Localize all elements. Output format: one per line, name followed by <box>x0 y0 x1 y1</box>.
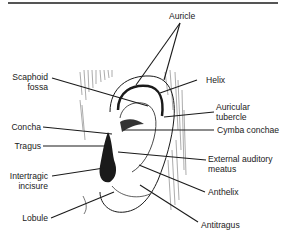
concha-shadow <box>99 132 116 182</box>
label-external-auditory-meatus-line1: External auditory <box>208 154 273 164</box>
label-concha: Concha <box>4 122 41 132</box>
label-cymba-conchae: Cymba conchae <box>217 125 279 135</box>
label-helix: Helix <box>206 75 225 85</box>
helix-fold <box>118 86 162 116</box>
label-auricle: Auricle <box>169 11 195 21</box>
label-intertragic-incisure-line2: incisure <box>0 181 48 191</box>
label-auricular-tubercle-line2: tubercle <box>216 112 247 122</box>
label-lobule: Lobule <box>6 213 48 223</box>
label-anthelix: Anthelix <box>208 187 239 197</box>
label-antitragus: Antitragus <box>201 220 240 230</box>
label-scaphoid-fossa-line1: Scaphoid <box>8 72 48 82</box>
anthelix-outline <box>120 103 156 172</box>
label-auricular-tubercle-line1: Auricular <box>216 102 250 112</box>
label-intertragic-incisure-line1: Intertragic <box>0 171 48 181</box>
label-external-auditory-meatus-line2: meatus <box>208 164 236 174</box>
label-scaphoid-fossa-line2: fossa <box>8 82 48 92</box>
ear-illustration <box>0 0 291 238</box>
label-tragus: Tragus <box>4 141 41 151</box>
